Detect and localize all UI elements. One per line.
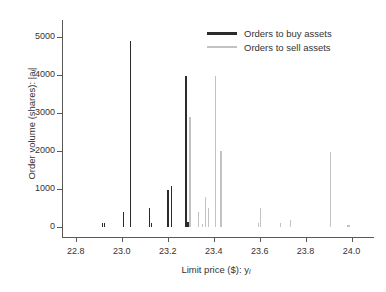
stem-bar-buy	[185, 76, 186, 227]
stem-bar-buy	[130, 41, 131, 227]
y-tick-label: 4000	[35, 70, 55, 79]
stem-bar-sell	[220, 151, 221, 227]
x-axis-title-subscript: i	[249, 268, 251, 275]
x-tick-label: 23.0	[102, 246, 142, 256]
y-axis-title-tail: |	[26, 67, 37, 69]
x-axis-title-main: Limit price ($): y	[181, 264, 249, 275]
legend-item-sell: Orders to sell assets	[207, 40, 332, 54]
x-tick-label: 22.8	[56, 246, 96, 256]
stem-bar-sell	[208, 208, 209, 227]
legend-label-sell: Orders to sell assets	[244, 42, 331, 53]
stem-bar-sell	[290, 220, 291, 227]
stem-bar-buy	[151, 223, 152, 227]
legend-swatch-buy-icon	[207, 32, 237, 35]
y-tick-label-wrap: 0	[0, 222, 55, 231]
x-tick-label: 23.8	[286, 246, 326, 256]
y-tick-mark	[57, 227, 62, 228]
x-tick-label: 23.6	[240, 246, 280, 256]
y-tick-label: 1000	[35, 184, 55, 193]
stem-bar-sell	[215, 76, 216, 227]
stem-bar-buy	[167, 190, 168, 227]
x-tick-mark	[168, 237, 169, 242]
x-tick-label: 23.2	[148, 246, 188, 256]
x-tick-mark	[306, 237, 307, 242]
y-tick-label: 0	[50, 222, 55, 231]
x-tick-mark	[214, 237, 215, 242]
chart-legend: Orders to buy assets Orders to sell asse…	[207, 26, 332, 54]
stem-bar-sell	[330, 152, 331, 227]
x-tick-label: 24.0	[332, 246, 372, 256]
y-tick-label: 3000	[35, 108, 55, 117]
x-tick-mark	[122, 237, 123, 242]
chart-figure: 010002000300040005000 22.823.023.223.423…	[0, 0, 386, 292]
y-axis-title-main: Order volume (shares): |a	[26, 71, 37, 179]
stem-bar-sell	[260, 208, 261, 227]
stem-bar-sell	[205, 197, 206, 227]
y-axis-title: Order volume (shares): |ai|	[26, 29, 37, 219]
stem-bar-sell	[348, 225, 349, 227]
stem-bar-sell	[202, 224, 203, 227]
legend-label-buy: Orders to buy assets	[244, 28, 332, 39]
stem-bar-sell	[189, 117, 190, 227]
stem-bar-buy	[104, 223, 105, 227]
stem-bar-buy	[171, 186, 172, 227]
legend-item-buy: Orders to buy assets	[207, 26, 332, 40]
y-tick-label: 2000	[35, 146, 55, 155]
x-axis-spine	[62, 237, 374, 238]
x-tick-mark	[260, 237, 261, 242]
y-axis-title-subscript: i	[30, 70, 37, 72]
x-tick-mark	[352, 237, 353, 242]
stem-bar-sell	[198, 212, 199, 227]
stem-bar-buy	[123, 212, 124, 227]
x-tick-mark	[76, 237, 77, 242]
x-axis-title: Limit price ($): yi	[62, 264, 370, 275]
legend-swatch-sell-icon	[207, 46, 237, 49]
y-tick-label: 5000	[35, 32, 55, 41]
x-tick-label: 23.4	[194, 246, 234, 256]
stem-bar-sell	[280, 223, 281, 227]
